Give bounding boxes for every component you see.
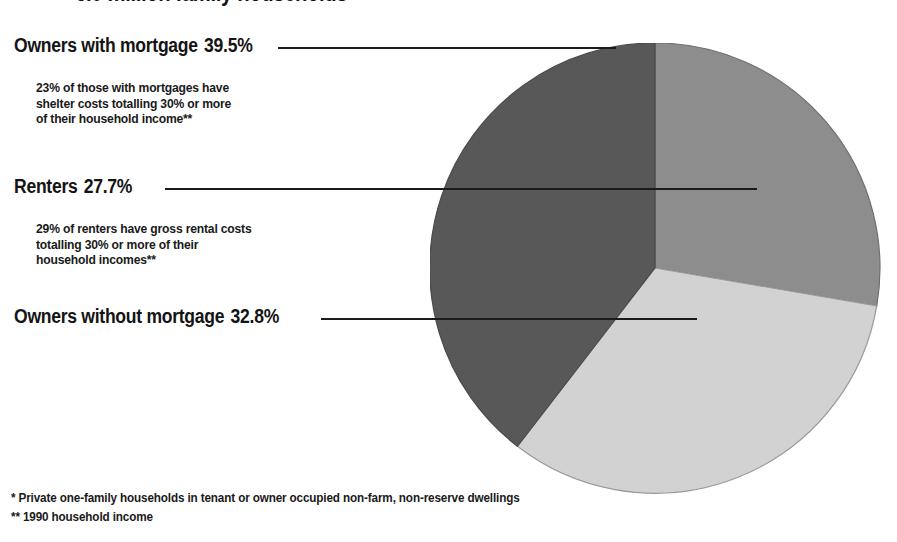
subnote-owners-with-mortgage-line-3: of their household income**: [36, 111, 231, 127]
callout-renters-value: 27.7%: [84, 175, 132, 197]
callout-owners-without-mortgage-value: 32.8%: [231, 305, 279, 327]
callout-renters: Renters27.7%: [14, 175, 145, 198]
subnote-owners-with-mortgage-line-2: shelter costs totalling 30% or more: [36, 96, 231, 112]
callout-owners-with-mortgage-value: 39.5%: [204, 34, 252, 56]
pie-chart: [430, 43, 882, 495]
callout-owners-without-mortgage-text: Owners without mortgage32.8%: [14, 305, 279, 328]
footnote-2: ** 1990 household income: [11, 508, 520, 527]
leader-line-renters: [165, 188, 757, 190]
chart-title: 6.0 million family households*: [26, 0, 404, 7]
callout-owners-with-mortgage: Owners with mortgage39.5%: [14, 34, 279, 57]
callout-renters-text: Renters27.7%: [14, 175, 132, 198]
subnote-owners-with-mortgage-line-1: 23% of those with mortgages have: [36, 80, 231, 96]
subnote-renters: 29% of renters have gross rental costs t…: [36, 221, 252, 268]
callout-renters-label: Renters: [14, 175, 77, 197]
subnote-owners-with-mortgage: 23% of those with mortgages have shelter…: [36, 80, 231, 127]
pie-slice-renters: [655, 43, 880, 306]
callout-owners-with-mortgage-text: Owners with mortgage39.5%: [14, 34, 253, 57]
subnote-renters-line-1: 29% of renters have gross rental costs: [36, 221, 252, 237]
footnotes: * Private one-family households in tenan…: [11, 489, 520, 527]
pie-svg: [430, 43, 882, 495]
callout-owners-without-mortgage: Owners without mortgage32.8%: [14, 305, 308, 328]
pie-chart-figure: 6.0 million family households* Owners wi…: [0, 0, 897, 542]
subnote-renters-line-2: totalling 30% or more of their: [36, 237, 252, 253]
footnote-1: * Private one-family households in tenan…: [11, 489, 520, 508]
callout-owners-without-mortgage-label: Owners without mortgage: [14, 305, 224, 327]
subnote-renters-line-3: household incomes**: [36, 252, 252, 268]
leader-line-owners-without-mortgage: [321, 318, 697, 320]
callout-owners-with-mortgage-label: Owners with mortgage: [14, 34, 198, 56]
leader-line-owners-with-mortgage: [278, 47, 616, 49]
